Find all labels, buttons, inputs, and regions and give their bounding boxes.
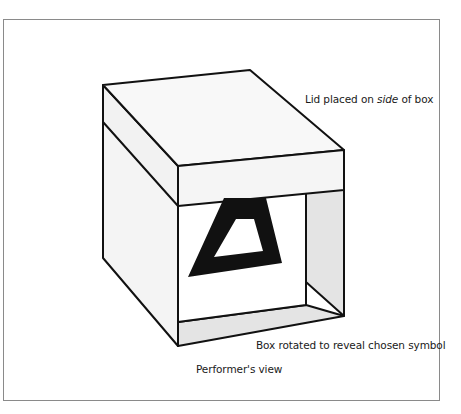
caption: Performer's view [196, 363, 282, 375]
box-label: Box rotated to reveal chosen symbol [256, 339, 445, 351]
lid-label-emphasis: side [377, 93, 398, 105]
lid-label-suffix: of box [398, 93, 433, 105]
box-illustration [0, 0, 461, 414]
box-inner-right-wall [306, 186, 344, 316]
lid-label-prefix: Lid placed on [305, 93, 377, 105]
lid-label: Lid placed on side of box [305, 93, 433, 105]
